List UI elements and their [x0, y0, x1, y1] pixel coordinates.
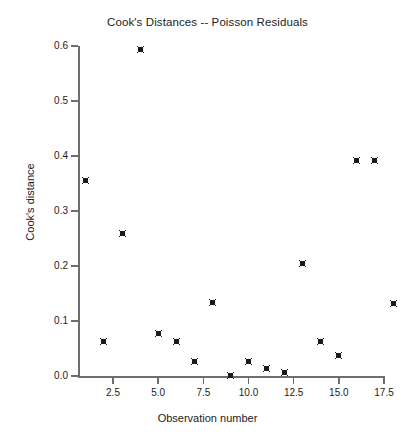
y-tick-mark: [71, 155, 78, 157]
y-tick-mark: [71, 210, 78, 212]
y-tick-label: 0.5: [42, 96, 68, 106]
x-tick-mark: [248, 377, 250, 384]
data-point-marker: [353, 157, 360, 164]
x-axis-title: Observation number: [0, 412, 415, 424]
y-tick-label: 0.1: [42, 316, 68, 326]
y-tick-mark: [71, 320, 78, 322]
x-tick-mark: [157, 377, 159, 384]
plot-area: 0.00.10.20.30.40.50.6 2.55.07.510.012.51…: [0, 0, 415, 440]
y-tick-label: 0.6: [42, 41, 68, 51]
y-tick-label: 0.2: [42, 261, 68, 271]
data-point-marker: [119, 230, 126, 237]
x-tick-label: 17.5: [364, 388, 404, 398]
y-tick-mark: [71, 265, 78, 267]
x-tick-mark: [383, 377, 385, 384]
x-tick-label: 2.5: [93, 388, 133, 398]
cooks-distance-scatter-chart: Cook's Distances -- Poisson Residuals 0.…: [0, 0, 415, 440]
data-point-marker: [317, 338, 324, 345]
data-point-marker: [227, 372, 234, 379]
x-tick-label: 12.5: [274, 388, 314, 398]
y-axis-title: Cook's distance: [24, 112, 36, 292]
y-tick-label: 0.0: [42, 371, 68, 381]
data-point-marker: [100, 338, 107, 345]
data-point-marker: [371, 157, 378, 164]
x-tick-label: 7.5: [183, 388, 223, 398]
data-point-marker: [155, 330, 162, 337]
y-tick-label: 0.4: [42, 151, 68, 161]
y-axis-line: [78, 46, 80, 377]
x-tick-label: 15.0: [319, 388, 359, 398]
y-tick-mark: [71, 100, 78, 102]
data-point-marker: [390, 300, 397, 307]
data-point-marker: [191, 358, 198, 365]
data-point-marker: [245, 358, 252, 365]
y-tick-mark: [71, 375, 78, 377]
x-tick-mark: [112, 377, 114, 384]
data-point-marker: [173, 338, 180, 345]
y-tick-label: 0.3: [42, 206, 68, 216]
y-tick-mark: [71, 45, 78, 47]
x-tick-mark: [338, 377, 340, 384]
data-point-marker: [137, 46, 144, 53]
x-tick-label: 5.0: [138, 388, 178, 398]
data-point-marker: [209, 299, 216, 306]
x-tick-mark: [203, 377, 205, 384]
data-point-marker: [82, 177, 89, 184]
x-tick-mark: [293, 377, 295, 384]
data-point-marker: [263, 365, 270, 372]
data-point-marker: [281, 369, 288, 376]
x-tick-label: 10.0: [229, 388, 269, 398]
data-point-marker: [299, 260, 306, 267]
data-point-marker: [335, 352, 342, 359]
